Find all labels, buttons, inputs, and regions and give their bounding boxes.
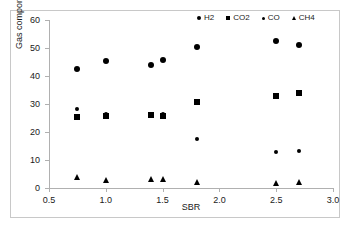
- data-point-h2: [160, 57, 166, 63]
- y-tick: 60: [45, 20, 49, 21]
- data-point-co2: [273, 93, 279, 99]
- y-tick-label: 30: [30, 100, 40, 109]
- x-tick: [49, 188, 50, 192]
- data-point-h2: [148, 62, 154, 68]
- y-axis-title: Gas component [Mole %]: [15, 0, 24, 49]
- y-tick: 40: [45, 76, 49, 77]
- data-point-h2: [296, 42, 302, 48]
- y-tick-label: 0: [35, 184, 40, 193]
- data-point-ch4: [273, 180, 279, 186]
- y-tick: 20: [45, 132, 49, 133]
- data-point-h2: [74, 66, 80, 72]
- data-point-co: [274, 150, 278, 154]
- y-tick-label: 20: [30, 128, 40, 137]
- data-point-h2: [273, 38, 279, 44]
- data-point-ch4: [194, 179, 200, 185]
- data-point-h2: [103, 58, 109, 64]
- y-axis-line: [49, 20, 50, 189]
- data-point-co2: [194, 99, 200, 105]
- data-point-co: [297, 149, 301, 153]
- chart-figure: Gas component [Mole %] H2CO2COCH4 010203…: [10, 10, 340, 218]
- x-tick: [163, 188, 164, 192]
- data-point-ch4: [148, 176, 154, 182]
- x-axis-line: [49, 188, 334, 189]
- data-point-co: [161, 112, 165, 116]
- y-tick-label: 10: [30, 156, 40, 165]
- data-point-co2: [74, 114, 80, 120]
- x-axis-title: SBR: [49, 203, 333, 212]
- y-tick: 10: [45, 160, 49, 161]
- data-point-co: [149, 112, 153, 116]
- data-point-co: [104, 112, 108, 116]
- plot-area: 0102030405060 0.51.01.52.02.53.0: [49, 20, 333, 188]
- data-point-ch4: [103, 177, 109, 183]
- data-point-co: [75, 107, 79, 111]
- x-tick: [333, 188, 334, 192]
- data-point-co2: [296, 90, 302, 96]
- x-tick: [106, 188, 107, 192]
- y-tick-label: 40: [30, 72, 40, 81]
- y-tick-label: 50: [30, 44, 40, 53]
- x-tick: [276, 188, 277, 192]
- y-tick-label: 60: [30, 16, 40, 25]
- x-tick: [219, 188, 220, 192]
- data-point-co: [195, 137, 199, 141]
- data-point-ch4: [296, 179, 302, 185]
- data-point-ch4: [74, 174, 80, 180]
- y-tick: 50: [45, 48, 49, 49]
- data-point-h2: [194, 44, 200, 50]
- y-tick: 30: [45, 104, 49, 105]
- data-point-ch4: [160, 176, 166, 182]
